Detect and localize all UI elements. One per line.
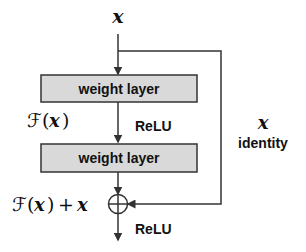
weight-layer-2-label: weight layer bbox=[78, 150, 160, 166]
svg-text:x: x bbox=[48, 110, 60, 131]
relu-label-1: ReLU bbox=[135, 118, 172, 134]
svg-text:x: x bbox=[76, 194, 88, 215]
svg-text:ℱ: ℱ bbox=[12, 193, 27, 215]
sum-label: ℱ ( x ) + x bbox=[12, 193, 88, 215]
weight-layer-1: weight layer bbox=[41, 75, 197, 102]
svg-text:+: + bbox=[58, 193, 74, 215]
residual-block-diagram: x weight layer ReLU ℱ ( x ) weight layer… bbox=[0, 0, 306, 252]
weight-layer-1-label: weight layer bbox=[78, 81, 160, 97]
shortcut-x-label: x bbox=[257, 112, 269, 133]
svg-text:): ) bbox=[62, 109, 69, 131]
svg-text:): ) bbox=[47, 193, 54, 215]
svg-text:x: x bbox=[33, 194, 45, 215]
identity-label: identity bbox=[238, 135, 288, 151]
residual-function-label: ℱ ( x ) bbox=[27, 109, 69, 131]
weight-layer-2: weight layer bbox=[41, 144, 197, 172]
input-x-label: x bbox=[111, 5, 124, 27]
relu-label-2: ReLU bbox=[135, 221, 172, 237]
addition-node-icon bbox=[109, 195, 128, 214]
svg-text:ℱ: ℱ bbox=[27, 109, 42, 131]
